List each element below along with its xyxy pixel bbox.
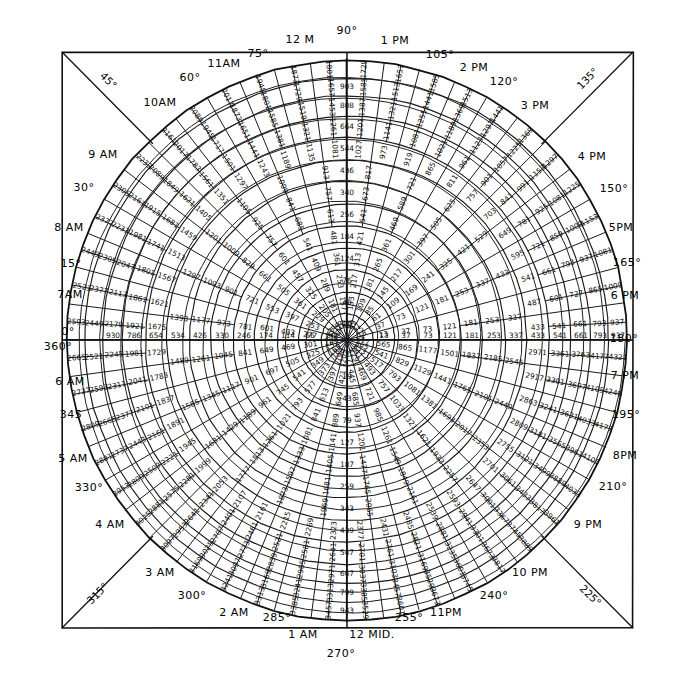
cell-number: 937 [352, 413, 363, 428]
axis-label-left: 345 [60, 408, 83, 421]
cell-number: 2971 [528, 347, 548, 357]
cell-number: 1261 [328, 117, 338, 137]
cell-number: 865 [398, 342, 413, 353]
axis-label-bottom: 11PM [430, 606, 462, 619]
axis-label-left: 4 AM [95, 518, 125, 531]
axis-number-270deg: 259 [340, 482, 354, 491]
axis-number-270deg: 799 [340, 588, 354, 597]
axis-label-bottom: 255° [395, 611, 424, 624]
cell-number: 3457 [323, 600, 333, 620]
axis-number-270deg: 7 [345, 351, 350, 360]
cell-number: 1729 [359, 59, 369, 79]
axis-label-bottom: 300° [178, 589, 207, 602]
axis-label-right: 150° [600, 182, 629, 195]
cell-number: 2377 [355, 520, 365, 540]
cell-number: 3763 [571, 349, 591, 359]
cell-number: 2641 [328, 542, 338, 562]
axis-label-bottom: 1 AM [288, 628, 318, 641]
axis-number-180deg: 174 [259, 331, 273, 340]
axis-label-bottom: 3 AM [145, 566, 175, 579]
cell-number: 2323 [328, 520, 338, 540]
axis-number-90deg: 664 [340, 122, 354, 131]
axis-label-left: 5 AM [58, 452, 88, 465]
axis-number-270deg: 343 [340, 504, 354, 513]
axis-number-270deg: 79 [342, 416, 352, 425]
axis-label-top: 105° [426, 48, 455, 61]
cell-number: 841 [238, 347, 253, 358]
axis-number-180deg: 246 [237, 331, 251, 340]
axis-label-top: 120° [490, 75, 519, 88]
axis-number-90deg: 808 [340, 101, 354, 110]
axis-label-top: 2 PM [460, 61, 489, 74]
axis-number-270deg: 943 [340, 606, 354, 615]
axis-label-bottom: 285° [263, 611, 292, 624]
cell-number: 1801 [324, 60, 334, 80]
cell-number: 937 [610, 317, 625, 327]
axis-label-bottom: 10 PM [512, 566, 548, 579]
axis-number-180deg: 654 [149, 331, 163, 340]
cell-number: 2665 [67, 353, 87, 363]
axis-number-0deg: 1 [361, 331, 366, 340]
cell-number: 565 [376, 339, 391, 350]
axis-label-right: 195° [612, 408, 641, 421]
axis-number-90deg: 16 [342, 319, 352, 328]
axis-label-top: 10AM [143, 96, 176, 109]
cell-number: 757 [323, 186, 334, 201]
cell-number: 4177 [590, 351, 610, 361]
axis-number-0deg: 793 [593, 331, 607, 340]
axis-label-top: 1 PM [381, 34, 410, 47]
cell-number: 2449 [85, 318, 105, 328]
axis-number-180deg: 426 [193, 331, 207, 340]
axis-number-180deg: 786 [127, 331, 141, 340]
axis-label-bottom: 12 MID. [349, 628, 395, 641]
cell-number: 817 [363, 164, 374, 179]
axis-label-right: 6 PM [611, 289, 640, 302]
cell-number: 2701 [357, 543, 367, 563]
cell-number: 889 [330, 413, 341, 428]
cell-number: 2179 [104, 319, 124, 329]
axis-number-0deg: 337 [509, 331, 523, 340]
axis-label-bottom: 240° [480, 589, 509, 602]
cell-number: 973 [216, 318, 231, 329]
axis-label-bottom: 270° [327, 647, 356, 660]
cell-number: 613 [325, 208, 336, 223]
axis-number-90deg: 124 [340, 254, 354, 263]
axis-number-180deg: 930 [106, 331, 120, 340]
axis-number-90deg: 903 [340, 82, 354, 91]
axis-label-left: 6 AM [55, 375, 85, 388]
axis-number-90deg: 76 [342, 276, 352, 285]
axis-number-90deg: 184 [340, 232, 354, 241]
axis-label-top: 75° [248, 47, 269, 60]
axis-number-0deg: 181 [465, 331, 479, 340]
polar-number-chart: 1132537496173859710912113314515716918119… [0, 0, 700, 679]
cell-number: 1729 [147, 347, 167, 357]
axis-number-270deg: 19 [342, 372, 352, 381]
axis-number-90deg: 544 [340, 144, 354, 153]
axis-label-top: 12 M [286, 33, 315, 46]
axis-number-180deg: 30 [326, 331, 336, 340]
axis-number-0deg: 661 [574, 331, 588, 340]
axis-number-0deg: 37 [401, 331, 411, 340]
cell-number: 913 [320, 165, 331, 180]
cell-number: 1657 [326, 78, 336, 98]
axis-number-0deg: 121 [443, 331, 457, 340]
cell-number: 649 [259, 345, 274, 356]
cell-number: 337 [507, 312, 522, 323]
axis-number-270deg: 547 [340, 548, 354, 557]
cell-number: 3361 [550, 349, 570, 359]
cell-number: 3385 [359, 582, 369, 602]
axis-number-0deg: 13 [379, 331, 389, 340]
cell-number: 2245 [104, 349, 124, 359]
axis-label-top: 4 PM [578, 150, 607, 163]
axis-number-270deg: 127 [340, 438, 354, 447]
axis-label-top: 3 PM [521, 99, 550, 112]
axis-label-right: 210° [599, 480, 628, 493]
cell-number: 1585 [359, 77, 369, 97]
axis-number-270deg: 187 [340, 460, 354, 469]
axis-label-top: 11AM [207, 57, 240, 70]
axis-label-right: 165° [613, 256, 642, 269]
cell-number: 2521 [84, 351, 104, 361]
axis-number-0deg: 253 [487, 331, 501, 340]
axis-label-left: 30° [74, 181, 95, 194]
cell-number: 1081 [330, 139, 340, 159]
